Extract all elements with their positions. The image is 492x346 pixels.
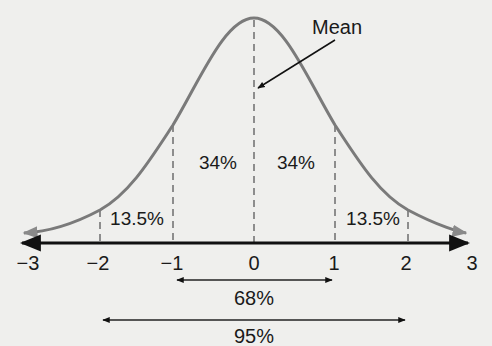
normal-distribution-diagram: Mean 34% 34% 13.5% 13.5% −3 −2 −1 0 1 2 … [0,0,492,346]
region-label-right-outer: 13.5% [346,209,400,228]
tick-label-plus-1: 1 [328,253,339,273]
mean-label: Mean [312,17,362,37]
region-label-left-outer: 13.5% [110,209,164,228]
span-label-68: 68% [234,288,274,308]
tick-label-minus-1: −1 [161,253,184,273]
tick-label-plus-2: 2 [400,253,411,273]
tick-label-minus-3: −3 [17,253,40,273]
tick-label-0: 0 [248,253,259,273]
tick-label-minus-2: −2 [87,253,110,273]
region-label-right-inner: 34% [277,153,315,172]
region-label-left-inner: 34% [199,153,237,172]
bell-curve [24,18,466,233]
tick-label-plus-3: 3 [466,253,477,273]
mean-pointer-arrow [258,40,335,88]
span-label-95: 95% [234,326,274,346]
